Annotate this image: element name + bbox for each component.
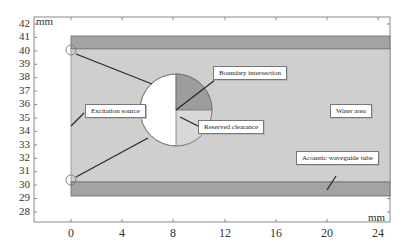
x-tick: 8 [163, 226, 183, 241]
y-tick: 28 [10, 205, 30, 217]
y-tick: 36 [10, 97, 30, 109]
x-tick: 0 [61, 226, 81, 241]
y-tick: 34 [10, 124, 30, 136]
x-tick: 16 [266, 226, 286, 241]
callout-boundary-intersection: Boundary intersection [213, 66, 287, 80]
y-tick: 38 [10, 70, 30, 82]
y-tick: 30 [10, 178, 30, 190]
y-tick: 32 [10, 151, 30, 163]
y-tick: 37 [10, 84, 30, 96]
x-tick: 12 [215, 226, 235, 241]
x-tick: 24 [368, 226, 388, 241]
y-tick: 40 [10, 44, 30, 56]
top-tube-wall [71, 36, 390, 49]
waveguide-diagram: 42 41 40 39 38 37 36 35 34 33 32 31 30 2… [0, 0, 406, 249]
callout-water-area: Water area [330, 104, 372, 118]
y-unit-label: mm [36, 15, 53, 27]
bottom-tube-wall [71, 182, 390, 196]
y-tick: 41 [10, 30, 30, 42]
x-unit-label: mm [368, 211, 385, 223]
y-tick: 42 [10, 17, 30, 29]
x-tick: 20 [317, 226, 337, 241]
y-tick: 31 [10, 164, 30, 176]
y-tick: 35 [10, 111, 30, 123]
x-tick: 4 [112, 226, 132, 241]
y-tick: 29 [10, 191, 30, 203]
y-tick: 33 [10, 138, 30, 150]
y-tick: 39 [10, 57, 30, 69]
callout-reserved-clearance: Reserved clearance [198, 120, 264, 134]
callout-excitation-source: Excitation source [85, 104, 146, 118]
callout-waveguide-tube: Acoustic waveguide tube [296, 151, 379, 165]
